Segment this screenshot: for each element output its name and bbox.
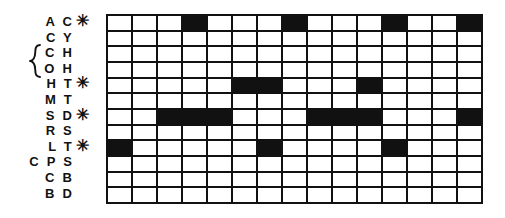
matrix-cell-empty bbox=[233, 47, 256, 61]
matrix-cell-empty bbox=[208, 126, 231, 140]
matrix-cell-empty bbox=[308, 126, 331, 140]
matrix-cell-empty bbox=[408, 188, 431, 202]
matrix-cell-empty bbox=[308, 188, 331, 202]
matrix-cell-empty bbox=[283, 79, 306, 93]
matrix-cell-empty bbox=[408, 94, 431, 108]
matrix-cell-empty bbox=[258, 126, 281, 140]
matrix-cell-empty bbox=[458, 173, 481, 187]
matrix-cell-empty bbox=[158, 141, 181, 155]
row-code-label: B D bbox=[45, 186, 74, 202]
matrix-cell-empty bbox=[383, 173, 406, 187]
matrix-cell-empty bbox=[383, 63, 406, 77]
matrix-cell-empty bbox=[208, 79, 231, 93]
row-code-label: A C bbox=[45, 14, 74, 30]
matrix-cell-empty bbox=[158, 188, 181, 202]
row-group-brace bbox=[29, 44, 41, 78]
matrix-cell-empty bbox=[383, 110, 406, 124]
matrix-cell-empty bbox=[233, 16, 256, 30]
matrix-cell-empty bbox=[333, 94, 356, 108]
matrix-cell-empty bbox=[333, 188, 356, 202]
matrix-cell-filled bbox=[158, 110, 181, 124]
matrix-cell-empty bbox=[383, 126, 406, 140]
matrix-cell-empty bbox=[433, 16, 456, 30]
matrix-cell-empty bbox=[358, 173, 381, 187]
matrix-cell-empty bbox=[308, 63, 331, 77]
matrix-cell-empty bbox=[433, 141, 456, 155]
matrix-cell-empty bbox=[333, 126, 356, 140]
matrix-cell-empty bbox=[433, 188, 456, 202]
matrix-cell-empty bbox=[358, 157, 381, 171]
matrix-cell-empty bbox=[233, 32, 256, 46]
matrix-cell-empty bbox=[283, 63, 306, 77]
matrix-cell-empty bbox=[408, 126, 431, 140]
presence-absence-matrix-figure: A C✳C Y✳C H✳O H✳H T✳M T✳S D✳R S✳L T✳C P … bbox=[0, 0, 505, 218]
matrix-cell-empty bbox=[208, 16, 231, 30]
row-label-item: H T✳ bbox=[0, 76, 104, 92]
matrix-cell-empty bbox=[133, 141, 156, 155]
matrix-cell-empty bbox=[283, 126, 306, 140]
matrix-cell-empty bbox=[208, 94, 231, 108]
matrix-cell-empty bbox=[133, 126, 156, 140]
matrix-cell-empty bbox=[308, 47, 331, 61]
matrix-cell-empty bbox=[333, 63, 356, 77]
matrix-cell-empty bbox=[233, 157, 256, 171]
row-label-item: C Y✳ bbox=[0, 30, 104, 46]
matrix-cell-empty bbox=[358, 188, 381, 202]
matrix-cell-empty bbox=[358, 94, 381, 108]
matrix-cell-empty bbox=[408, 141, 431, 155]
row-code-label: H T bbox=[46, 76, 74, 92]
matrix-cell-empty bbox=[458, 79, 481, 93]
matrix-cell-filled bbox=[333, 110, 356, 124]
matrix-cell-empty bbox=[408, 79, 431, 93]
matrix-grid bbox=[106, 14, 483, 204]
matrix-cell-empty bbox=[133, 173, 156, 187]
matrix-cell-empty bbox=[108, 79, 131, 93]
matrix-cell-empty bbox=[308, 79, 331, 93]
matrix-cell-empty bbox=[408, 173, 431, 187]
row-label-item: A C✳ bbox=[0, 14, 104, 30]
matrix-cell-empty bbox=[408, 16, 431, 30]
row-code-label: O H bbox=[44, 61, 74, 77]
row-marker-asterisk-icon: ✳ bbox=[76, 13, 89, 29]
matrix-cell-empty bbox=[458, 32, 481, 46]
matrix-cell-empty bbox=[333, 32, 356, 46]
matrix-cell-empty bbox=[458, 63, 481, 77]
matrix-cell-empty bbox=[408, 157, 431, 171]
matrix-cell-empty bbox=[183, 173, 206, 187]
matrix-cell-empty bbox=[433, 32, 456, 46]
matrix-cell-empty bbox=[183, 47, 206, 61]
row-label-item: C B✳ bbox=[0, 170, 104, 186]
matrix-cell-empty bbox=[433, 79, 456, 93]
matrix-cell-empty bbox=[233, 126, 256, 140]
row-marker-asterisk-icon: ✳ bbox=[76, 107, 89, 123]
row-marker-asterisk-icon: ✳ bbox=[76, 138, 89, 154]
matrix-cell-empty bbox=[383, 47, 406, 61]
matrix-cell-empty bbox=[383, 32, 406, 46]
matrix-cell-empty bbox=[308, 32, 331, 46]
matrix-cell-empty bbox=[258, 173, 281, 187]
matrix-cell-empty bbox=[183, 32, 206, 46]
matrix-cell-filled bbox=[258, 79, 281, 93]
matrix-cell-empty bbox=[358, 32, 381, 46]
matrix-cell-empty bbox=[458, 188, 481, 202]
matrix-cell-empty bbox=[308, 94, 331, 108]
matrix-cell-empty bbox=[233, 173, 256, 187]
matrix-cell-empty bbox=[108, 63, 131, 77]
matrix-cell-empty bbox=[283, 141, 306, 155]
matrix-cell-empty bbox=[183, 63, 206, 77]
matrix-cell-empty bbox=[158, 126, 181, 140]
matrix-cell-empty bbox=[408, 47, 431, 61]
row-marker-asterisk-icon: ✳ bbox=[76, 75, 89, 91]
matrix-cell-empty bbox=[208, 188, 231, 202]
matrix-cell-empty bbox=[108, 173, 131, 187]
matrix-cell-empty bbox=[208, 47, 231, 61]
matrix-cell-filled bbox=[308, 110, 331, 124]
matrix-cell-empty bbox=[133, 157, 156, 171]
matrix-cell-empty bbox=[283, 32, 306, 46]
matrix-cell-empty bbox=[233, 94, 256, 108]
matrix-cell-empty bbox=[433, 94, 456, 108]
matrix-cell-empty bbox=[358, 141, 381, 155]
matrix-cell-empty bbox=[308, 173, 331, 187]
matrix-cell-empty bbox=[183, 141, 206, 155]
matrix-cell-empty bbox=[258, 157, 281, 171]
